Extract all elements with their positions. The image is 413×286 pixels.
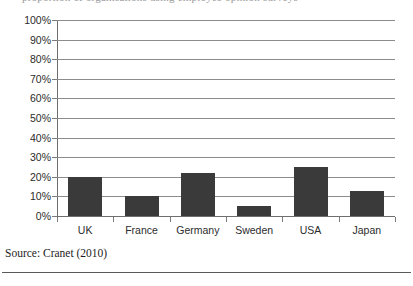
x-axis-label-usa: USA: [300, 223, 322, 237]
x-axis-tick: [395, 217, 396, 222]
chart-plot-area: 0%10%20%30%40%50%60%70%80%90%100% UKFran…: [0, 14, 413, 229]
bar-germany: [181, 173, 215, 216]
x-axis-label-sweden: Sweden: [235, 223, 273, 237]
x-axis-tick: [282, 217, 283, 222]
bar-japan: [350, 191, 384, 216]
x-axis-tick: [339, 217, 340, 222]
x-axis-tick: [113, 217, 114, 222]
x-axis-label-uk: UK: [78, 223, 93, 237]
x-axis-label-japan: Japan: [353, 223, 382, 237]
bar-series: [57, 20, 395, 216]
x-axis-tick: [57, 217, 58, 222]
x-axis-labels: UKFranceGermanySwedenUSAJapan: [57, 223, 395, 239]
bar-sweden: [237, 206, 271, 216]
figure-container: proportion of organisations using employ…: [0, 0, 413, 286]
cutoff-title-row: proportion of organisations using employ…: [0, 0, 413, 8]
y-axis-ticks: [0, 20, 57, 216]
x-axis-tick: [226, 217, 227, 222]
cutoff-title-text: proportion of organisations using employ…: [22, 0, 298, 3]
source-caption: Source: Cranet (2010): [5, 247, 107, 259]
x-axis-ticks: [57, 217, 396, 222]
x-axis-label-germany: Germany: [176, 223, 219, 237]
x-axis-label-france: France: [125, 223, 158, 237]
bar-uk: [68, 177, 102, 216]
bar-usa: [294, 167, 328, 216]
bottom-divider: [2, 272, 411, 273]
x-axis-tick: [170, 217, 171, 222]
bar-france: [125, 196, 159, 216]
